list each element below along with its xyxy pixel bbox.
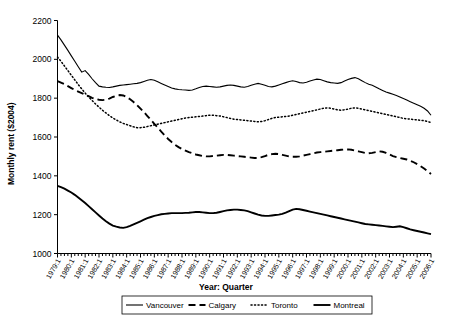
legend-label-calgary: Calgary bbox=[209, 301, 237, 310]
y-axis-group: 1000120014001600180020002200 Monthly ren… bbox=[6, 16, 58, 259]
x-axis-title: Year: Quarter bbox=[199, 282, 254, 292]
chart-container: 1000120014001600180020002200 Monthly ren… bbox=[0, 0, 460, 328]
x-axis-tick-labels: 1979:11980:11981:11982:11983:11984:11985… bbox=[44, 257, 436, 281]
y-axis-tick-labels: 1000120014001600180020002200 bbox=[33, 16, 52, 259]
rent-line-chart: 1000120014001600180020002200 Monthly ren… bbox=[0, 0, 460, 328]
y-tick-label: 2000 bbox=[33, 54, 52, 64]
y-tick-label: 1600 bbox=[33, 132, 52, 142]
series-lines-group bbox=[58, 35, 432, 234]
x-axis-ticks bbox=[58, 254, 432, 258]
series-line-toronto bbox=[58, 57, 432, 128]
legend-label-vancouver: Vancouver bbox=[146, 301, 184, 310]
y-tick-label: 2200 bbox=[33, 16, 52, 26]
y-tick-label: 1800 bbox=[33, 93, 52, 103]
chart-legend: VancouverCalgaryTorontoMontreal bbox=[122, 296, 372, 314]
x-axis-group: 1979:11980:11981:11982:11983:11984:11985… bbox=[44, 254, 436, 293]
y-tick-label: 1400 bbox=[33, 171, 52, 181]
y-tick-label: 1200 bbox=[33, 210, 52, 220]
legend-label-montreal: Montreal bbox=[334, 301, 365, 310]
y-tick-label: 1000 bbox=[33, 249, 52, 259]
series-line-vancouver bbox=[58, 35, 432, 115]
y-axis-title: Monthly rent ($2004) bbox=[6, 102, 16, 185]
y-axis-ticks bbox=[54, 21, 58, 254]
legend-label-toronto: Toronto bbox=[271, 301, 298, 310]
series-line-montreal bbox=[58, 186, 432, 234]
series-line-calgary bbox=[58, 81, 432, 174]
